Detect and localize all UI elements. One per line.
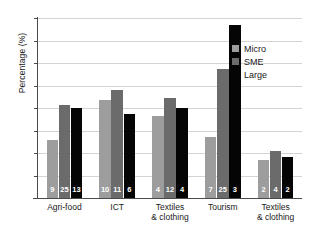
bar: 4	[270, 151, 282, 198]
x-axis-label: Textiles& clothing	[249, 203, 302, 222]
bar: 6	[124, 114, 136, 198]
bar: 2	[258, 160, 270, 198]
legend-item[interactable]: Large	[232, 68, 267, 81]
y-tick-mark	[34, 63, 38, 64]
bar: 10	[99, 100, 111, 198]
x-axis-label: ICT	[91, 203, 144, 213]
bar-count-label: 2	[282, 186, 294, 194]
legend-item-label: SME	[244, 57, 264, 67]
y-axis-title: Percentage (%)	[17, 3, 27, 123]
bar: 25	[217, 69, 229, 198]
x-axis-label-line: Agri-food	[38, 203, 91, 213]
x-axis-label-line: ICT	[91, 203, 144, 213]
x-axis-label: Agri-food	[38, 203, 91, 213]
y-tick-mark	[34, 86, 38, 87]
x-axis-label: Textiles& clothing	[144, 203, 197, 222]
y-tick-mark	[34, 41, 38, 42]
bar-count-label: 13	[71, 186, 83, 194]
bar-chart: Percentage (%) 80706050403020100 9251310…	[0, 0, 310, 250]
x-axis-label-line: & clothing	[144, 213, 197, 223]
legend-swatch-icon	[232, 71, 239, 78]
y-tick-mark	[34, 198, 38, 199]
legend: MicroSMELarge	[232, 42, 267, 81]
bar-count-label: 4	[270, 186, 282, 194]
bar: 25	[59, 105, 71, 198]
bar-group: 92513	[47, 18, 83, 198]
bar-count-label: 7	[205, 186, 217, 194]
legend-item[interactable]: Micro	[232, 42, 267, 55]
x-axis-label: Tourism	[196, 203, 249, 213]
bar-count-label: 11	[111, 186, 123, 194]
bar-count-label: 25	[217, 186, 229, 194]
bar-count-label: 12	[164, 186, 176, 194]
bar-count-label: 25	[59, 186, 71, 194]
legend-item-label: Large	[244, 70, 267, 80]
y-tick-mark	[34, 18, 38, 19]
y-tick-mark	[34, 176, 38, 177]
bar: 4	[176, 108, 188, 198]
bar-count-label: 4	[152, 186, 164, 194]
bar: 13	[71, 108, 83, 198]
x-axis-label-line: Tourism	[196, 203, 249, 213]
bar-group: 10116	[99, 18, 135, 198]
bar: 11	[111, 90, 123, 198]
bar-count-label: 9	[47, 186, 59, 194]
legend-swatch-icon	[232, 45, 239, 52]
x-axis-line	[33, 198, 302, 199]
bar-group: 4124	[152, 18, 188, 198]
x-axis-label-line: & clothing	[249, 213, 302, 223]
bar: 12	[164, 98, 176, 198]
y-tick-mark	[34, 108, 38, 109]
legend-item[interactable]: SME	[232, 55, 267, 68]
legend-swatch-icon	[232, 58, 239, 65]
bar: 7	[205, 137, 217, 198]
y-tick-mark	[34, 131, 38, 132]
bar: 9	[47, 140, 59, 198]
bar-count-label: 2	[258, 186, 270, 194]
legend-item-label: Micro	[244, 44, 266, 54]
bar: 4	[152, 116, 164, 198]
bar-count-label: 4	[176, 186, 188, 194]
bar-count-label: 6	[124, 186, 136, 194]
y-tick-mark	[34, 153, 38, 154]
bar-count-label: 10	[99, 186, 111, 194]
bar: 2	[282, 157, 294, 198]
bar-count-label: 3	[229, 186, 241, 194]
